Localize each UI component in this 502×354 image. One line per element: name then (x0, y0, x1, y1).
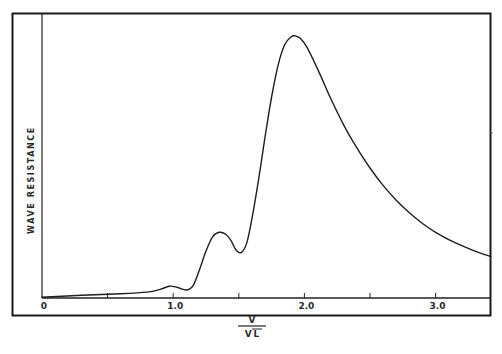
y-axis-label: WAVE RESISTANCE (27, 126, 36, 234)
radical-v: V (245, 329, 252, 339)
radical-l: L (254, 329, 260, 339)
x-axis-label-numerator: V (249, 315, 256, 325)
x-tick-labels: 01.02.03.0 (41, 301, 446, 311)
x-tick-label: 0 (41, 301, 47, 311)
x-tick-label: 1.0 (167, 301, 183, 311)
x-ticks (108, 293, 436, 298)
x-tick-label: 3.0 (430, 301, 446, 311)
x-tick-label: 2.0 (298, 301, 314, 311)
x-axis-label-denominator: VL (245, 329, 260, 339)
outer-frame (13, 14, 491, 316)
wave-resistance-chart: 01.02.03.0 WAVE RESISTANCE V VL (0, 0, 502, 354)
wave-resistance-curve (42, 36, 491, 298)
